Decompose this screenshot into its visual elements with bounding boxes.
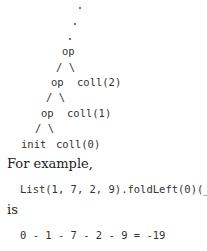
tree-node-op: op [62, 45, 75, 57]
tree-branch: / \ [35, 122, 54, 134]
ellipsis-dot [69, 38, 71, 40]
ellipsis-dot [74, 23, 76, 25]
is-text: is [7, 202, 18, 217]
tree-branch: / \ [46, 91, 65, 103]
tree-node-op: op [51, 76, 64, 88]
result-expression: 0 - 1 - 7 - 2 - 9 = -19 [20, 229, 165, 241]
for-example-text: For example, [7, 156, 93, 171]
code-example: List(1, 7, 2, 9).foldLeft(0)(_ - _) [20, 183, 207, 195]
tree-node-coll-2: coll(2) [77, 76, 121, 88]
tree-node-init: init [21, 138, 46, 150]
ellipsis-dot [79, 7, 81, 9]
tree-node-coll-0: coll(0) [56, 138, 100, 150]
tree-node-op: op [41, 107, 54, 119]
tree-branch: / \ [56, 61, 75, 73]
tree-node-coll-1: coll(1) [67, 107, 111, 119]
